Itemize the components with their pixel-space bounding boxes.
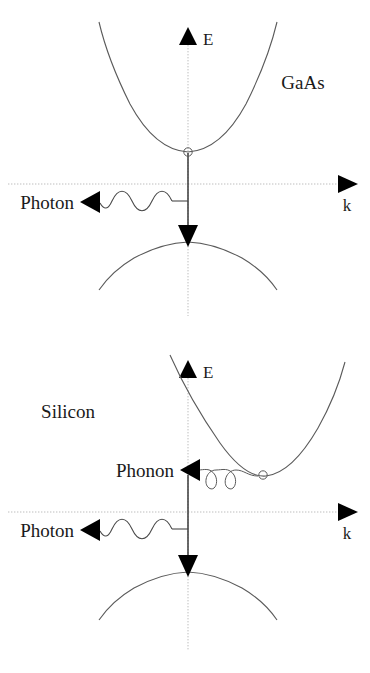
material-label-gaas: GaAs (281, 72, 324, 93)
photon-label-gaas: Photon (20, 192, 74, 213)
energy-axis-label-silicon: E (203, 363, 213, 382)
energy-axis-label-gaas: E (203, 30, 213, 49)
momentum-axis-label-gaas: k (343, 196, 352, 215)
phonon-label-silicon: Phonon (116, 460, 175, 481)
momentum-axis-label-silicon: k (343, 524, 352, 543)
material-label-silicon: Silicon (41, 401, 95, 422)
band-structure-figure: E k GaAs Photon E k Sili (0, 0, 370, 673)
photon-label-silicon: Photon (20, 520, 74, 541)
